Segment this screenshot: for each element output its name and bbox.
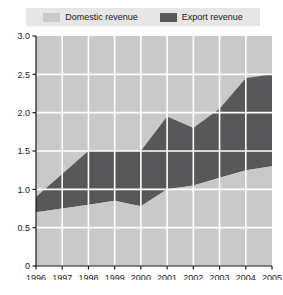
- legend-item-export-revenue: Export revenue: [160, 13, 243, 22]
- y-axis-tick-label: 2.5: [17, 70, 30, 80]
- legend-swatch-icon: [160, 13, 177, 22]
- legend-swatch-icon: [43, 13, 60, 22]
- y-axis-tick-label: 2.0: [17, 108, 30, 118]
- y-axis-tick-label: 1.0: [17, 185, 30, 195]
- x-axis-tick-label: 2004: [236, 273, 256, 280]
- x-axis-tick-label: 1997: [52, 273, 72, 280]
- chart-figure: Domestic revenue Export revenue 00.51.01…: [0, 0, 283, 295]
- x-axis-tick-label: 1999: [105, 273, 125, 280]
- legend-item-domestic-revenue: Domestic revenue: [43, 13, 138, 22]
- y-axis-tick-label: 1.5: [17, 146, 30, 156]
- y-axis-tick-label: 3.0: [17, 31, 30, 41]
- x-axis-tick-label: 2001: [157, 273, 177, 280]
- x-axis-tick-label: 2000: [131, 273, 151, 280]
- legend-item-label: Export revenue: [182, 13, 243, 22]
- legend-item-label: Domestic revenue: [65, 13, 138, 22]
- x-axis-tick-label: 2002: [183, 273, 203, 280]
- x-axis-tick-label: 2003: [210, 273, 230, 280]
- chart-legend: Domestic revenue Export revenue: [26, 8, 260, 26]
- x-axis-tick-label: 1998: [78, 273, 98, 280]
- x-axis-tick-label: 1996: [26, 273, 46, 280]
- y-axis-tick-label: 0.5: [17, 223, 30, 233]
- stacked-area-chart: 00.51.01.52.02.53.0199619971998199920002…: [0, 30, 283, 280]
- x-axis-tick-label: 2005: [262, 273, 282, 280]
- chart-plot-area: 00.51.01.52.02.53.0199619971998199920002…: [0, 30, 283, 280]
- y-axis-tick-label: 0: [25, 261, 30, 271]
